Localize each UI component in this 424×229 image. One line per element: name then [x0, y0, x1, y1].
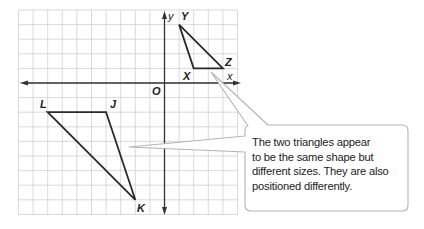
- callout-line: The two triangles appear: [252, 135, 412, 150]
- label-x-vertex: X: [182, 70, 191, 82]
- callout-line: positioned differently.: [252, 179, 412, 194]
- label-y-axis: y: [167, 10, 175, 22]
- callout-line: different sizes. They are also: [252, 164, 412, 179]
- label-l-vertex: L: [40, 98, 47, 110]
- coordinate-plane-diagram: Y X Z L J K O y x: [0, 0, 424, 229]
- callout-text: The two triangles appear to be the same …: [252, 135, 412, 193]
- label-k-vertex: K: [137, 202, 146, 214]
- label-origin: O: [152, 85, 161, 97]
- label-y-vertex: Y: [181, 10, 190, 22]
- label-z-vertex: Z: [224, 56, 233, 68]
- x-axis-left-arrow-icon: [20, 81, 28, 86]
- y-axis-bottom-arrow-icon: [162, 207, 167, 215]
- label-x-axis: x: [226, 70, 233, 82]
- x-axis-right-arrow-icon: [233, 81, 241, 86]
- callout-line: to be the same shape but: [252, 150, 412, 165]
- triangle-xyz: [179, 25, 223, 69]
- y-axis-top-arrow-icon: [162, 11, 167, 19]
- label-j-vertex: J: [110, 98, 117, 110]
